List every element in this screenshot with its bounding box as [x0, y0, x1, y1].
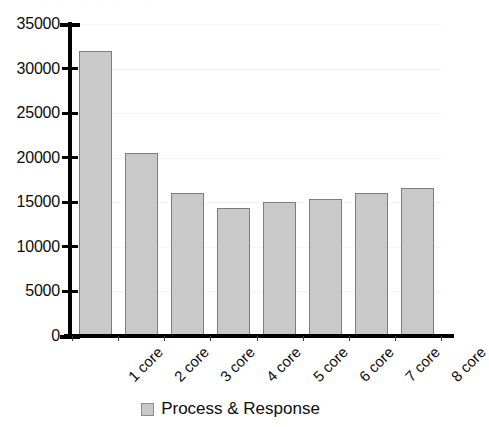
chart-legend: Process & Response	[0, 400, 461, 418]
y-axis-tick	[62, 245, 78, 248]
bar[interactable]	[217, 208, 250, 336]
bar[interactable]	[355, 193, 388, 336]
bar[interactable]	[309, 199, 342, 336]
x-axis-tick	[257, 336, 258, 341]
bar[interactable]	[171, 193, 204, 336]
y-axis-tick	[60, 23, 80, 27]
y-axis-tick	[62, 67, 78, 70]
x-axis-tick	[349, 336, 350, 341]
x-axis-tick-label: 2 core	[171, 344, 212, 385]
x-axis-tick	[441, 336, 442, 341]
y-axis-tick	[60, 335, 80, 339]
y-axis-tick	[62, 290, 78, 293]
legend-swatch-icon	[141, 403, 154, 416]
gridline	[72, 24, 441, 25]
legend-label: Process & Response	[161, 400, 320, 418]
y-axis-tick-label: 30000	[2, 61, 60, 77]
y-axis-tick-label: 5000	[2, 283, 60, 299]
plot-area	[72, 24, 441, 336]
x-axis-tick	[118, 336, 119, 341]
x-axis-tick	[72, 336, 73, 341]
y-axis-tick	[62, 112, 78, 115]
bar[interactable]	[79, 51, 112, 336]
x-axis-tick	[164, 336, 165, 341]
x-axis-tick-label: 1 core	[125, 344, 166, 385]
bar[interactable]	[125, 153, 158, 336]
y-axis-tick-label: 0	[2, 328, 60, 344]
x-axis-tick	[395, 336, 396, 341]
y-axis-tick-label: 35000	[2, 16, 60, 32]
x-axis-tick-label: 8 core	[448, 344, 489, 385]
x-axis-tick-label: 3 core	[218, 344, 259, 385]
x-axis-tick-label: 4 core	[264, 344, 305, 385]
gridline	[72, 113, 441, 114]
y-axis-tick-label: 10000	[2, 239, 60, 255]
bar[interactable]	[401, 188, 434, 336]
y-axis-tick-labels: 05000100001500020000250003000035000	[0, 0, 60, 427]
x-axis-tick-label: 7 core	[402, 344, 443, 385]
bar[interactable]	[263, 202, 296, 336]
x-axis-tick-label: 5 core	[310, 344, 351, 385]
y-axis-tick	[62, 201, 78, 204]
y-axis-tick	[62, 156, 78, 159]
y-axis-tick-label: 15000	[2, 194, 60, 210]
x-axis-tick	[303, 336, 304, 341]
x-axis-tick	[210, 336, 211, 341]
gridline	[72, 69, 441, 70]
y-axis-tick-label: 20000	[2, 150, 60, 166]
y-axis-tick-label: 25000	[2, 105, 60, 121]
x-axis-tick-label: 6 core	[356, 344, 397, 385]
